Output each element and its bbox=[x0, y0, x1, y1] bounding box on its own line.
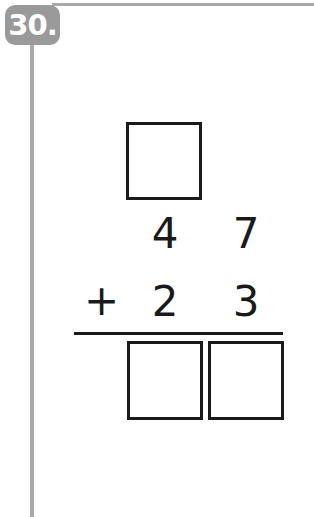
answer-tens-box[interactable] bbox=[127, 341, 203, 420]
bottom-addend-ones-digit: 3 bbox=[231, 281, 261, 323]
problem-number-badge: 30. bbox=[5, 5, 60, 45]
bottom-addend-tens-digit: 2 bbox=[150, 281, 180, 323]
top-addend-tens-digit: 4 bbox=[150, 213, 180, 255]
frame-left-border bbox=[30, 40, 34, 517]
frame-top-border bbox=[52, 3, 314, 6]
sum-line bbox=[74, 332, 283, 335]
answer-ones-box[interactable] bbox=[208, 341, 284, 420]
carry-answer-box[interactable] bbox=[126, 122, 202, 200]
plus-operator: + bbox=[84, 280, 116, 322]
top-addend-ones-digit: 7 bbox=[231, 213, 261, 255]
